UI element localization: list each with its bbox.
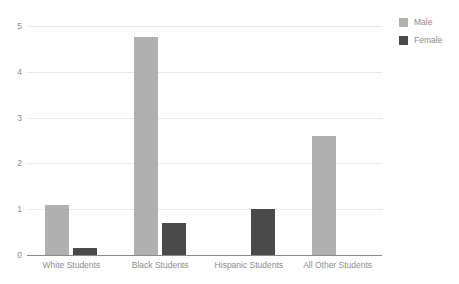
gridline-3 (27, 118, 382, 119)
x-tick-label-all-other-students: All Other Students (293, 259, 382, 271)
bar-male-all-other-students (312, 136, 336, 255)
bar-female-black-students (162, 223, 186, 255)
legend-label-male: Male (414, 18, 432, 27)
y-tick-label-5: 5 (2, 22, 22, 31)
legend-item-male[interactable]: Male (399, 18, 459, 27)
gridline-4 (27, 72, 382, 73)
y-tick-label-2: 2 (2, 159, 22, 168)
legend: MaleFemale (399, 18, 459, 54)
x-tick-label-white-students: White Students (27, 259, 116, 271)
x-tick-label-black-students: Black Students (116, 259, 205, 271)
y-tick-label-0: 0 (2, 251, 22, 260)
bar-male-white-students (45, 205, 69, 255)
legend-swatch-icon-male (399, 18, 408, 27)
bar-chart: 012345 White StudentsBlack StudentsHispa… (0, 0, 459, 284)
y-tick-label-3: 3 (2, 113, 22, 122)
bar-male-black-students (134, 37, 158, 255)
legend-item-female[interactable]: Female (399, 36, 459, 45)
x-axis-category-labels: White StudentsBlack StudentsHispanic Stu… (27, 259, 382, 275)
x-tick-label-hispanic-students: Hispanic Students (205, 259, 294, 271)
gridline-5 (27, 26, 382, 27)
plot-area (27, 26, 382, 255)
x-axis-line (27, 255, 382, 256)
y-tick-label-4: 4 (2, 68, 22, 77)
y-axis: 012345 (0, 26, 22, 255)
y-tick-label-1: 1 (2, 205, 22, 214)
bar-female-hispanic-students (251, 209, 275, 255)
bar-female-white-students (73, 248, 97, 255)
legend-label-female: Female (414, 36, 442, 45)
legend-swatch-icon-female (399, 36, 408, 45)
